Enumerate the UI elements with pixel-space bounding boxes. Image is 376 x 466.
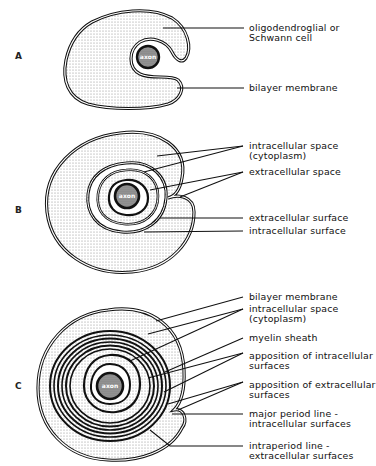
label-apposition-extracellular: apposition of extracellular surfaces xyxy=(249,380,376,400)
label-bilayer-membrane-a: bilayer membrane xyxy=(249,83,338,93)
svg-text:axon: axon xyxy=(102,382,118,389)
panel-letter-b: B xyxy=(15,205,22,215)
panel-b-diagram: axon xyxy=(47,132,243,272)
label-major-period-line: major period line - intracellular surfac… xyxy=(249,409,351,429)
label-extracellular-space-b: extracellular space xyxy=(249,167,341,177)
panel-letter-a: A xyxy=(15,51,22,61)
label-apposition-intracellular: apposition of intracellular surfaces xyxy=(249,351,373,371)
label-intracellular-space-b: intracellular space (cytoplasm) xyxy=(249,141,338,161)
label-intraperiod-line: intraperiod line - extracellular surface… xyxy=(249,441,354,461)
panel-a-diagram: axon xyxy=(65,11,244,109)
schwann-cell-body xyxy=(65,11,189,109)
label-myelin-sheath: myelin sheath xyxy=(249,333,318,343)
label-extracellular-surface: extracellular surface xyxy=(249,213,348,223)
svg-text:axon: axon xyxy=(119,192,135,199)
svg-text:axon: axon xyxy=(140,53,156,60)
panel-letter-c: C xyxy=(15,381,22,391)
label-schwann-cell: oligodendroglial or Schwann cell xyxy=(249,23,340,43)
label-bilayer-membrane-c: bilayer membrane xyxy=(249,292,338,302)
label-intracellular-space-c: intracellular space (cytoplasm) xyxy=(249,304,338,324)
label-intracellular-surface: intracellular surface xyxy=(249,226,346,236)
panel-c-diagram: axon xyxy=(38,297,243,460)
